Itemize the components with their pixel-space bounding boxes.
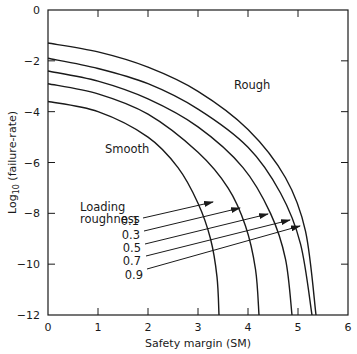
curves [48,43,316,315]
x-tick-label: 0 [45,321,52,334]
plot-frame [48,10,348,315]
legend-entry: 0.9 [125,268,143,282]
x-tick-label: 1 [95,321,102,334]
y-tick-label: −10 [17,258,40,271]
rough-label: Rough [234,78,270,92]
legend-entry: 0.7 [123,254,141,268]
y-tick-label: −8 [24,207,40,220]
legend-entry: 0.5 [123,241,141,255]
x-axis-label: Safety margin (SM) [145,337,251,350]
failure-rate-chart: 01234560−2−4−6−8−10−12 Safety margin (SM… [0,0,357,354]
x-tick-label: 6 [345,321,352,334]
x-tick-label: 3 [195,321,202,334]
legend-entry: 0.1 [121,214,139,228]
curve-roughness-0.1 [48,102,219,316]
plot-border [48,10,348,315]
smooth-label: Smooth [105,142,149,156]
labels: Safety margin (SM)Log10 (failure-rate)Lo… [6,78,270,350]
legend-entry: 0.3 [122,228,140,242]
y-tick-label: −2 [24,55,40,68]
axis-ticks: 01234560−2−4−6−8−10−12 [17,4,352,334]
y-tick-label: 0 [33,4,40,17]
y-tick-label: −6 [24,157,40,170]
legend-arrows [143,202,300,269]
y-tick-label: −12 [17,309,40,322]
y-axis-label: Log10 (failure-rate) [6,111,21,214]
x-tick-label: 5 [295,321,302,334]
legend-arrow [144,208,240,231]
y-tick-label: −4 [24,106,40,119]
curve-roughness-0.9 [48,43,316,315]
x-tick-label: 4 [245,321,252,334]
x-tick-label: 2 [145,321,152,334]
curve-roughness-0.7 [48,58,312,315]
legend-arrow [147,226,300,269]
